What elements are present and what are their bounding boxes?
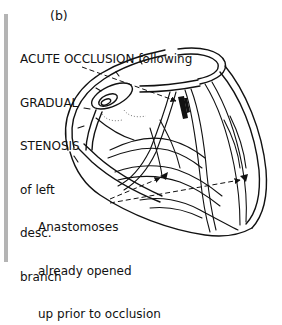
dotted-wall-marks xyxy=(102,110,146,121)
anastomosis-leader-arrow-2 xyxy=(110,180,240,203)
anastomoses-annotation-line: up prior to occlusion xyxy=(38,307,161,322)
anastomoses-annotation-line: already opened xyxy=(38,264,161,279)
anastomosis-sites xyxy=(160,172,248,182)
